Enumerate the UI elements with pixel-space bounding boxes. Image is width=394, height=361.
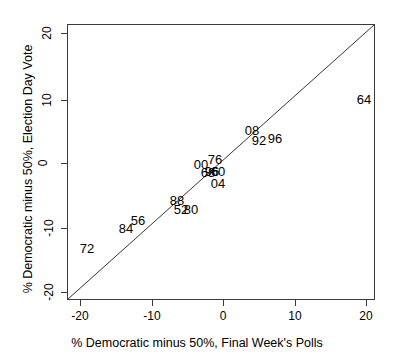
x-tick-label: 0: [220, 309, 227, 323]
y-tick-label: 0: [36, 160, 50, 167]
y-axis-label: % Democratic minus 50%, Election Day Vot…: [21, 19, 35, 319]
scatter-plot-figure: -20 -10 0 10 20 -20 -10 0 10 20 72 84 56…: [0, 0, 394, 361]
y-tick-label: 10: [40, 93, 54, 106]
x-tick-label: 20: [359, 309, 372, 323]
x-tick-label: 10: [288, 309, 301, 323]
point-label-1972: 72: [80, 242, 94, 255]
point-label-1980: 80: [184, 203, 198, 216]
y-tick-label: 20: [40, 26, 54, 39]
point-label-2004: 04: [211, 177, 225, 190]
point-label-1956: 56: [131, 214, 145, 227]
point-label-1964: 64: [357, 93, 371, 106]
x-tick-mark: [295, 300, 296, 306]
x-tick-mark: [152, 300, 153, 306]
x-tick-mark: [80, 300, 81, 306]
y-tick-label: -10: [42, 219, 56, 236]
x-tick-mark: [223, 300, 224, 306]
x-tick-mark: [366, 300, 367, 306]
y-tick-label: -20: [42, 283, 56, 300]
point-label-1996: 96: [268, 132, 282, 145]
x-tick-label: -10: [143, 309, 160, 323]
x-tick-label: -20: [71, 309, 88, 323]
x-axis-label: % Democratic minus 50%, Final Week's Pol…: [0, 336, 394, 350]
plot-panel: 72 84 56 88 52 80 00 76 68 60 96 04 08 9…: [67, 24, 375, 300]
plot-area: 72 84 56 88 52 80 00 76 68 60 96 04 08 9…: [68, 25, 374, 299]
point-label-1992: 92: [252, 134, 266, 147]
